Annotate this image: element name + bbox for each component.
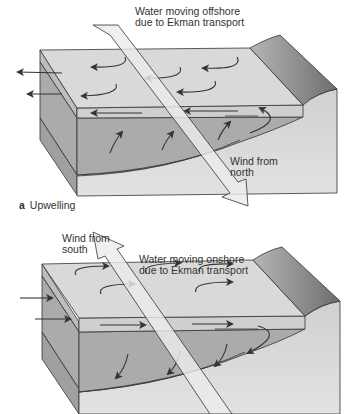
- panel-a-caption: aUpwelling: [19, 199, 75, 211]
- panel-a-letter: a: [19, 199, 25, 211]
- panel-upwelling: [18, 25, 337, 206]
- panel-b-wind-label: Wind from south: [62, 233, 110, 255]
- panel-a-wind-label: Wind from north: [230, 156, 278, 178]
- panel-b-water-label: Water moving onshore due to Ekman transp…: [139, 254, 248, 276]
- panel-a-title: Upwelling: [30, 199, 76, 211]
- panel-a-water-label: Water moving offshore due to Ekman trans…: [135, 6, 244, 28]
